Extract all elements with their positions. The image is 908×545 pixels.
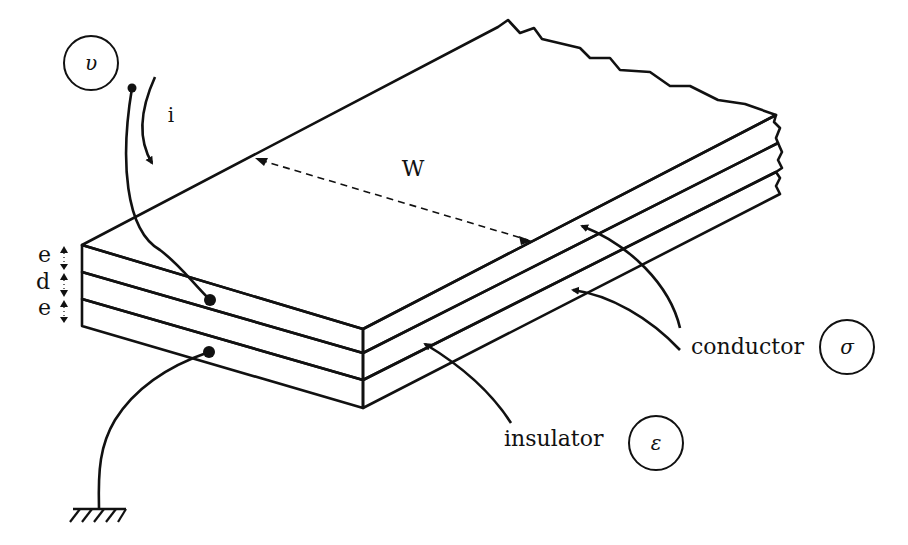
top-conductor-contact-dot bbox=[204, 294, 216, 306]
slab-top-face bbox=[82, 20, 776, 329]
thickness-middle-label: d bbox=[36, 269, 50, 294]
insulator-symbol: ε bbox=[651, 431, 662, 455]
voltage-symbol: υ bbox=[85, 51, 97, 75]
conductor-annotation: conductor σ bbox=[573, 226, 874, 374]
current-label: i bbox=[168, 103, 174, 127]
right-face-top-conductor bbox=[363, 115, 780, 353]
thickness-top-label: e bbox=[38, 242, 51, 267]
left-face-top-conductor bbox=[82, 245, 363, 353]
insulator-label: insulator bbox=[504, 426, 604, 451]
right-face-bottom-conductor bbox=[363, 172, 780, 408]
thickness-dimensions: e d e bbox=[36, 242, 68, 323]
ground-icon bbox=[70, 509, 126, 522]
width-dimension: W bbox=[255, 156, 532, 245]
conductor-label: conductor bbox=[691, 334, 804, 359]
voltage-terminal: υ bbox=[64, 36, 118, 90]
layered-conductor-diagram: υ i e d e W bbox=[0, 0, 908, 545]
ground-wire bbox=[99, 352, 209, 508]
current-arrow bbox=[143, 77, 155, 163]
width-label: W bbox=[402, 156, 425, 181]
thickness-bottom-label: e bbox=[38, 295, 51, 320]
conductor-symbol: σ bbox=[840, 335, 855, 359]
insulator-annotation: insulator ε bbox=[425, 344, 683, 470]
